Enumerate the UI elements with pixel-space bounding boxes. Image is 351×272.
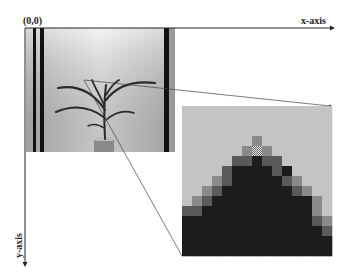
grid-pixel — [262, 106, 272, 116]
grid-pixel — [202, 226, 212, 236]
grid-pixel — [302, 196, 312, 206]
grid-pixel — [302, 156, 312, 166]
grid-pixel — [242, 176, 252, 186]
grid-pixel — [242, 106, 252, 116]
grid-pixel — [282, 186, 292, 196]
plant-photo — [26, 28, 175, 152]
grid-pixel — [262, 226, 272, 236]
grid-pixel — [272, 156, 282, 166]
grid-pixel — [322, 246, 332, 256]
grid-pixel — [322, 116, 332, 126]
grid-pixel — [192, 136, 202, 146]
grid-pixel — [322, 186, 332, 196]
grid-pixel — [312, 136, 322, 146]
grid-pixel — [212, 226, 222, 236]
grid-pixel — [302, 176, 312, 186]
grid-pixel — [232, 176, 242, 186]
grid-pixel — [232, 156, 242, 166]
y-axis-arrow — [23, 262, 28, 267]
grid-pixel — [202, 136, 212, 146]
grid-pixel — [272, 246, 282, 256]
grid-pixel — [292, 186, 302, 196]
grid-pixel — [242, 156, 252, 166]
plant-pot — [94, 140, 114, 152]
grid-pixel — [212, 246, 222, 256]
grid-pixel — [222, 196, 232, 206]
grid-pixel — [252, 206, 262, 216]
grid-pixel — [202, 116, 212, 126]
grid-pixel — [182, 246, 192, 256]
grid-pixel — [252, 246, 262, 256]
grid-pixel — [312, 106, 322, 116]
grid-pixel — [292, 126, 302, 136]
grid-pixel — [232, 186, 242, 196]
grid-pixel — [242, 116, 252, 126]
grid-pixel — [282, 216, 292, 226]
grid-pixel — [202, 146, 212, 156]
grid-pixel — [322, 226, 332, 236]
grid-pixel — [252, 156, 262, 166]
grid-pixel — [182, 226, 192, 236]
grid-pixel — [312, 156, 322, 166]
grid-pixel — [222, 126, 232, 136]
grid-pixel — [242, 226, 252, 236]
grid-pixel — [282, 196, 292, 206]
left-pole-inner — [40, 28, 44, 152]
grid-pixel — [282, 176, 292, 186]
grid-pixel — [182, 146, 192, 156]
grid-pixel — [252, 166, 262, 176]
grid-pixel — [312, 176, 322, 186]
grid-pixel — [262, 246, 272, 256]
grid-pixel — [182, 216, 192, 226]
grid-pixel — [302, 116, 312, 126]
grid-pixel — [252, 236, 262, 246]
grid-pixel — [292, 196, 302, 206]
grid-pixel — [212, 216, 222, 226]
grid-pixel — [272, 126, 282, 136]
grid-pixel — [242, 236, 252, 246]
grid-pixel — [242, 246, 252, 256]
grid-pixel — [182, 116, 192, 126]
grid-pixel — [242, 186, 252, 196]
grid-pixel — [192, 196, 202, 206]
grid-pixel — [312, 246, 322, 256]
grid-pixel — [292, 106, 302, 116]
grid-pixel — [212, 236, 222, 246]
grid-pixel — [222, 156, 232, 166]
grid-pixel — [272, 106, 282, 116]
grid-pixel — [292, 206, 302, 216]
grid-pixel — [302, 106, 312, 116]
origin-label: (0,0) — [23, 15, 42, 27]
grid-pixel — [222, 216, 232, 226]
grid-pixel — [262, 196, 272, 206]
grid-pixel — [252, 196, 262, 206]
grid-pixel — [182, 236, 192, 246]
grid-pixel — [302, 216, 312, 226]
grid-pixel — [202, 246, 212, 256]
grid-pixel — [262, 116, 272, 126]
grid-pixel — [272, 236, 282, 246]
grid-pixel — [212, 106, 222, 116]
grid-pixel — [212, 166, 222, 176]
grid-pixel — [262, 216, 272, 226]
grid-pixel — [252, 106, 262, 116]
grid-pixel — [242, 196, 252, 206]
grid-pixel — [322, 106, 332, 116]
grid-pixel — [262, 126, 272, 136]
highlighted-pixel — [252, 146, 262, 156]
grid-pixel — [272, 166, 282, 176]
grid-pixel — [192, 176, 202, 186]
grid-pixel — [252, 136, 262, 146]
grid-pixel — [322, 206, 332, 216]
grid-pixel — [212, 196, 222, 206]
grid-pixel — [282, 156, 292, 166]
grid-pixel — [212, 156, 222, 166]
grid-pixel — [252, 176, 262, 186]
grid-pixel — [262, 136, 272, 146]
grid-pixel — [322, 146, 332, 156]
grid-pixel — [182, 166, 192, 176]
grid-pixel — [312, 126, 322, 136]
right-pole — [164, 28, 169, 152]
grid-pixel — [292, 156, 302, 166]
grid-pixel — [182, 176, 192, 186]
